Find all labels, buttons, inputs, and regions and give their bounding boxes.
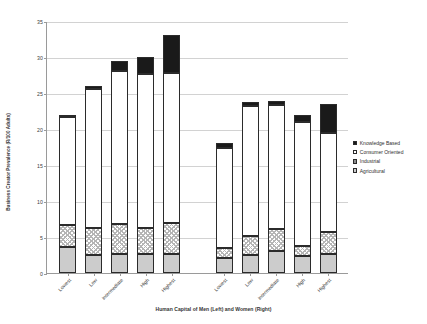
segment-indus	[242, 236, 259, 255]
segment-cons	[216, 148, 233, 248]
y-tick-mark	[44, 94, 47, 95]
segment-cons	[294, 122, 311, 246]
x-tick-mark	[224, 273, 225, 276]
legend-label: Knowledge Based	[360, 140, 400, 146]
segment-cons	[137, 74, 154, 228]
y-tick-label: 30	[37, 55, 43, 61]
y-tick-label: 15	[37, 163, 43, 169]
legend-swatch-cons-icon	[353, 150, 357, 154]
segment-know	[59, 115, 76, 118]
bar-women-lowest[interactable]	[216, 21, 233, 273]
x-tick-mark	[146, 273, 147, 276]
y-tick-mark	[44, 238, 47, 239]
bar-men-lowest[interactable]	[59, 21, 76, 273]
segment-indus	[137, 228, 154, 253]
x-tick-label: Low	[51, 277, 98, 324]
x-tick-label: Intermediate	[77, 277, 124, 324]
legend-item[interactable]: Industrial	[353, 158, 403, 164]
x-tick-mark	[250, 273, 251, 276]
legend-item[interactable]: Agricultural	[353, 168, 403, 174]
segment-indus	[320, 232, 337, 254]
x-tick-mark	[328, 273, 329, 276]
legend-item[interactable]: Consumer Oriented	[353, 149, 403, 155]
segment-indus	[294, 246, 311, 257]
x-tick-label: Highest	[130, 277, 177, 324]
segment-cons	[59, 117, 76, 225]
y-tick-mark	[44, 202, 47, 203]
x-tick-mark	[94, 273, 95, 276]
segment-indus	[59, 225, 76, 247]
bar-women-low[interactable]	[242, 21, 259, 273]
segment-agri	[111, 254, 128, 273]
x-tick-label: Highest	[286, 277, 333, 324]
segment-indus	[163, 223, 180, 254]
bar-men-low[interactable]	[85, 21, 102, 273]
bar-men-intermediate[interactable]	[111, 21, 128, 273]
bar-women-highest[interactable]	[320, 21, 337, 273]
segment-agri	[268, 251, 285, 273]
y-tick-label: 25	[37, 91, 43, 97]
x-tick-label: Lowest	[25, 277, 72, 324]
y-tick-mark	[44, 274, 47, 275]
segment-know	[163, 35, 180, 72]
segment-know	[242, 102, 259, 106]
legend-swatch-agri-icon	[353, 168, 357, 172]
y-tick-mark	[44, 130, 47, 131]
y-tick-mark	[44, 166, 47, 167]
segment-indus	[85, 228, 102, 255]
y-tick-label: 5	[40, 235, 43, 241]
legend-label: Consumer Oriented	[360, 149, 404, 155]
bar-women-intermediate[interactable]	[268, 21, 285, 273]
segment-agri	[59, 247, 76, 273]
segment-cons	[85, 89, 102, 229]
x-tick-label: High	[103, 277, 150, 324]
bar-women-high[interactable]	[294, 21, 311, 273]
segment-know	[268, 101, 285, 105]
segment-cons	[163, 73, 180, 223]
segment-agri	[163, 254, 180, 273]
segment-know	[111, 61, 128, 72]
segment-agri	[320, 254, 337, 273]
segment-agri	[216, 258, 233, 273]
y-axis-title: Business Creator Prevalence (R/100 Adult…	[6, 113, 11, 211]
legend-label: Agricultural	[360, 168, 385, 174]
x-tick-label: Low	[208, 277, 255, 324]
legend-swatch-know-icon	[353, 141, 357, 145]
segment-know	[216, 143, 233, 147]
y-tick-label: 0	[40, 271, 43, 277]
y-tick-label: 35	[37, 19, 43, 25]
y-tick-mark	[44, 22, 47, 23]
stacked-bar-chart: Business Creator Prevalence (R/100 Adult…	[0, 0, 427, 324]
x-axis-title: Human Capital of Men (Left) and Women (R…	[0, 306, 427, 312]
x-tick-label: High	[260, 277, 307, 324]
segment-agri	[242, 255, 259, 273]
segment-know	[320, 104, 337, 133]
y-tick-label: 20	[37, 127, 43, 133]
bar-men-high[interactable]	[137, 21, 154, 273]
segment-know	[85, 86, 102, 89]
segment-cons	[268, 105, 285, 230]
plot-area: 05101520253035LowestLowIntermediateHighH…	[46, 22, 348, 274]
segment-indus	[111, 224, 128, 254]
segment-know	[294, 115, 311, 122]
x-tick-mark	[68, 273, 69, 276]
segment-agri	[85, 255, 102, 273]
segment-agri	[137, 254, 154, 273]
x-tick-label: Lowest	[182, 277, 229, 324]
x-tick-label: Intermediate	[234, 277, 281, 324]
segment-indus	[216, 248, 233, 258]
x-tick-mark	[172, 273, 173, 276]
segment-cons	[111, 71, 128, 224]
y-tick-mark	[44, 58, 47, 59]
segment-indus	[268, 229, 285, 251]
legend-swatch-indus-icon	[353, 159, 357, 163]
bar-men-highest[interactable]	[163, 21, 180, 273]
y-tick-label: 10	[37, 199, 43, 205]
legend-item[interactable]: Knowledge Based	[353, 140, 403, 146]
segment-cons	[320, 133, 337, 232]
segment-cons	[242, 106, 259, 236]
x-tick-mark	[302, 273, 303, 276]
x-tick-mark	[276, 273, 277, 276]
chart-legend: Knowledge BasedConsumer OrientedIndustri…	[353, 140, 403, 174]
segment-know	[137, 57, 154, 74]
